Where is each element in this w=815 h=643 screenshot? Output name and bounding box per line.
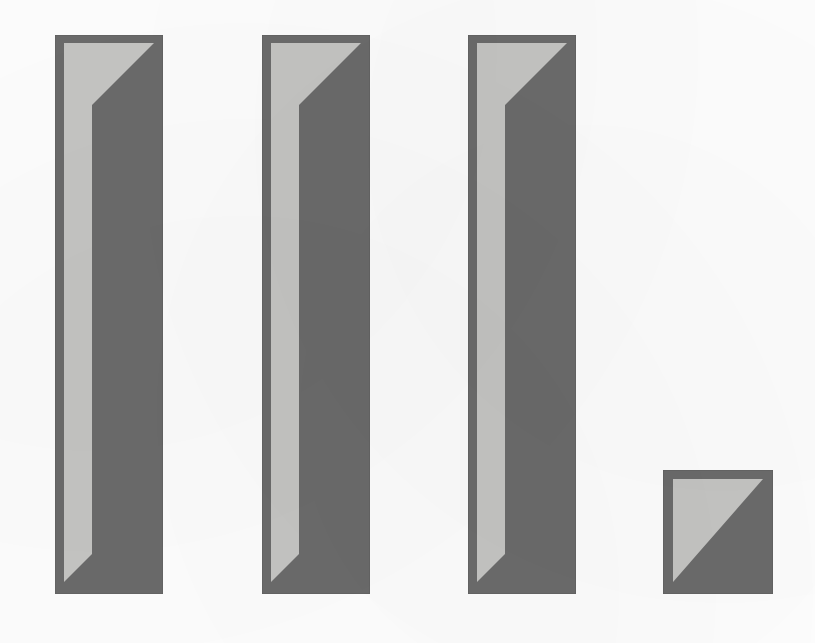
bar-4[interactable] bbox=[663, 470, 773, 594]
bar-2-graphic bbox=[262, 35, 370, 594]
bar-3-graphic bbox=[468, 35, 576, 594]
bar-4-graphic bbox=[663, 470, 773, 594]
bar-1-graphic bbox=[55, 35, 163, 594]
figure-canvas bbox=[0, 0, 815, 643]
bar-2[interactable] bbox=[262, 35, 370, 594]
plot-area bbox=[0, 0, 815, 643]
bar-3[interactable] bbox=[468, 35, 576, 594]
bar-1[interactable] bbox=[55, 35, 163, 594]
